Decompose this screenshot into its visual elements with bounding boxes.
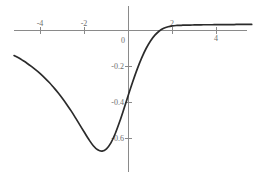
x-tick-label-4: 4 (214, 34, 218, 43)
origin-tick-label: 0 (121, 36, 125, 45)
chart-container: -4 -2 2 4 0 -0.2 -0.4 -0.6 (0, 0, 253, 177)
y-tick-label--0.2: -0.2 (111, 62, 124, 71)
function-curve (14, 24, 252, 151)
x-tick-label--4: -4 (37, 19, 44, 28)
x-tick-label--2: -2 (81, 19, 88, 28)
chart-canvas: -4 -2 2 4 0 -0.2 -0.4 -0.6 (0, 0, 253, 177)
y-tick-label--0.4: -0.4 (111, 98, 124, 107)
